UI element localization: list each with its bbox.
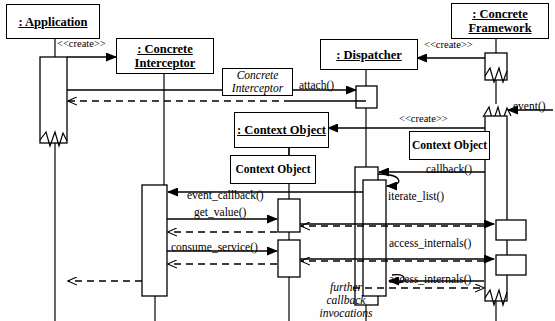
message-attach: attach() <box>299 79 334 91</box>
participant-dispatcher-label: : Dispatcher <box>336 48 402 62</box>
param-box-context-object-left: Context Object <box>230 155 316 184</box>
param-box-concrete-interceptor-label: Concrete Interceptor <box>223 69 292 94</box>
participant-concrete-interceptor[interactable]: : Concrete Interceptor <box>116 38 214 74</box>
param-box-context-object-left-label: Context Object <box>235 163 310 176</box>
uml-sequence-diagram: : Application : Concrete Interceptor : D… <box>0 0 555 321</box>
activation-concrete-interceptor <box>142 185 167 296</box>
message-create-interceptor: <<create>> <box>57 38 106 49</box>
participant-context-object-label: : Context Object <box>237 123 326 137</box>
participant-concrete-framework[interactable]: : Concrete Framework <box>451 3 549 39</box>
activation-dispatcher-iterate <box>363 180 386 296</box>
param-box-context-object-right: Context Object <box>409 131 490 160</box>
activation-application <box>40 57 67 143</box>
activation-context-object-2 <box>278 240 300 277</box>
message-event: event() <box>513 100 546 112</box>
message-iterate-list: iterate_list() <box>388 190 444 202</box>
participant-dispatcher[interactable]: : Dispatcher <box>320 39 418 70</box>
activation-dispatcher-attach <box>356 86 377 108</box>
activation-framework-internals-2 <box>496 255 526 275</box>
note-line-1: further <box>303 281 389 294</box>
note-line-2: callback <box>303 294 389 307</box>
activation-context-object-1 <box>278 199 300 232</box>
participant-application-label: : Application <box>18 15 87 29</box>
message-callback: callback() <box>426 163 472 175</box>
message-create-context: <<create>> <box>399 113 448 124</box>
message-access-internals-1: access_internals() <box>389 237 471 249</box>
note-line-3: invocations <box>303 307 389 320</box>
message-event-callback: event_callback() <box>187 189 264 201</box>
param-box-context-object-right-label: Context Object <box>412 139 487 152</box>
param-box-concrete-interceptor: Concrete Interceptor <box>222 68 293 96</box>
activation-framework-internals-1 <box>496 220 526 240</box>
message-access-internals-2: access_internals() <box>389 273 471 285</box>
participant-application[interactable]: : Application <box>6 4 100 39</box>
participant-concrete-framework-label: : Concrete Framework <box>452 7 548 35</box>
participant-context-object[interactable]: : Context Object <box>234 112 329 148</box>
note-further-callback-invocations: further callback invocations <box>303 281 389 320</box>
message-get-value: get_value() <box>194 206 246 218</box>
participant-concrete-interceptor-label: : Concrete Interceptor <box>117 42 213 70</box>
message-create-dispatcher: <<create>> <box>424 39 473 50</box>
message-consume-service: consume_service() <box>171 241 258 253</box>
